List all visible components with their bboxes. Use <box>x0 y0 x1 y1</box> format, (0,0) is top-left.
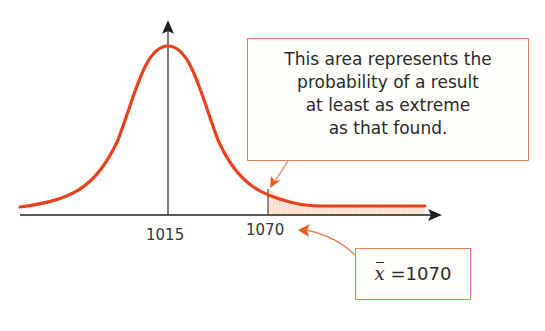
xbar-callout-pointer <box>306 230 355 255</box>
sample-mean-callout: x =1070 <box>355 248 471 300</box>
callout-line-2: probability of a result <box>248 71 528 94</box>
callout-line-1: This area represents the <box>248 48 528 71</box>
area-pointer-arrowhead-icon <box>270 176 281 188</box>
area-callout-pointer <box>275 161 288 181</box>
xbar-symbol: x <box>375 249 385 299</box>
callout-line-4: as that found. <box>248 117 528 140</box>
tick-label-observed: 1070 <box>246 221 284 239</box>
callout-line-3: at least as extreme <box>248 94 528 117</box>
area-explanation-callout: This area represents the probability of … <box>247 38 529 161</box>
tick-label-mean: 1015 <box>146 226 184 244</box>
sample-mean-value: =1070 <box>385 263 452 284</box>
